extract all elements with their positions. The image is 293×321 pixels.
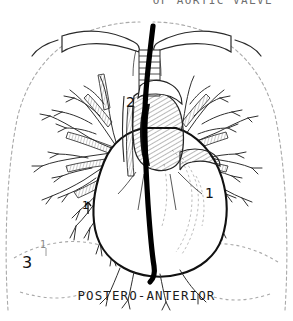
label-1-left-hilum: 1	[82, 200, 89, 211]
label-2-aorta: 2	[126, 95, 135, 109]
label-1-diaphragm-tick: 1	[40, 240, 46, 250]
view-caption: POSTERO-ANTERIOR	[0, 288, 293, 303]
label-1-right-heart-border: 1	[205, 186, 214, 200]
anatomy-drawing	[0, 0, 293, 321]
top-caption-clipped: OF AORTIC VALVE	[0, 0, 283, 7]
chest-illustration-figure: 1 2 3 1 1 OF AORTIC VALVE POSTERO-ANTERI…	[0, 0, 293, 321]
label-3-diaphragm: 3	[22, 255, 32, 271]
